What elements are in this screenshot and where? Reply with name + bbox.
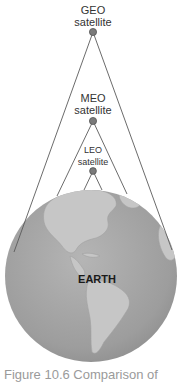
meo-satellite-icon [89, 117, 96, 124]
earth-label: EARTH [78, 273, 116, 285]
leo-label: LEO [84, 146, 102, 155]
geo-satellite-icon [89, 28, 96, 35]
meo-label: MEO [80, 93, 105, 104]
leo-satellite-icon [90, 168, 97, 175]
leo-sublabel: satellite [78, 158, 109, 167]
figure-caption: Figure 10.6 Comparison of [4, 367, 158, 382]
geo-sublabel: satellite [74, 17, 111, 28]
geo-label: GEO [81, 5, 105, 16]
meo-sublabel: satellite [74, 105, 111, 116]
